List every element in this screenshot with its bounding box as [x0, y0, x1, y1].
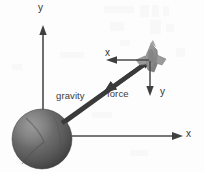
gravity-label: gravity	[56, 90, 85, 101]
force-label: force	[107, 88, 129, 99]
global-y-axis-label: y	[38, 2, 43, 13]
physics-diagram-figure: y x x y gravity force	[0, 0, 204, 172]
planet-sphere	[12, 109, 72, 169]
local-y-axis-label: y	[160, 86, 165, 97]
diagram-canvas	[0, 0, 204, 172]
global-x-axis-label: x	[186, 128, 191, 139]
local-x-axis-label: x	[105, 47, 110, 58]
